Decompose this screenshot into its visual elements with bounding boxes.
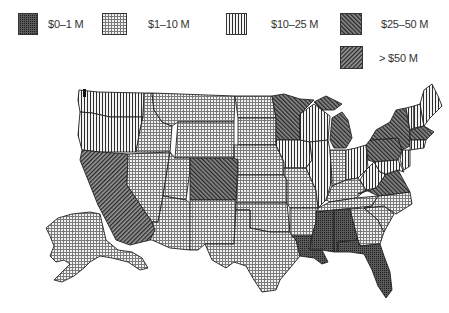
state-north-dakota [235, 96, 276, 118]
state-pennsylvania [366, 138, 402, 162]
state-south-dakota [238, 118, 276, 145]
state-wyoming [175, 122, 234, 158]
state-oregon [78, 112, 143, 152]
state-new-mexico [190, 200, 236, 250]
state-florida [338, 240, 392, 298]
state-connecticut [410, 140, 426, 150]
state-maine [420, 84, 442, 126]
state-michigan [330, 112, 352, 148]
state-nebraska [234, 145, 284, 175]
us-choropleth-map [0, 0, 449, 313]
state-montana [152, 93, 235, 126]
state-colorado [190, 158, 238, 200]
puget-sound-marker [83, 89, 86, 97]
state-kansas [236, 175, 287, 203]
